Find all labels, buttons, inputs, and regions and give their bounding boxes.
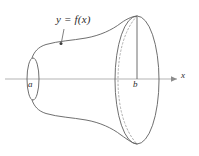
x-axis-arrowhead [171,76,177,81]
upper-limit-label-b: b [133,79,138,89]
leader-line [62,29,65,42]
function-label-leader [60,29,65,45]
leader-endpoint-dot [60,42,63,45]
x-axis-label: x [181,70,185,80]
lower-profile-curve [32,100,137,144]
figure-canvas [0,0,199,156]
solid-of-revolution-figure: y = f(x) a b x [0,0,199,156]
lower-limit-label-a: a [28,79,33,89]
function-label: y = f(x) [56,13,91,25]
